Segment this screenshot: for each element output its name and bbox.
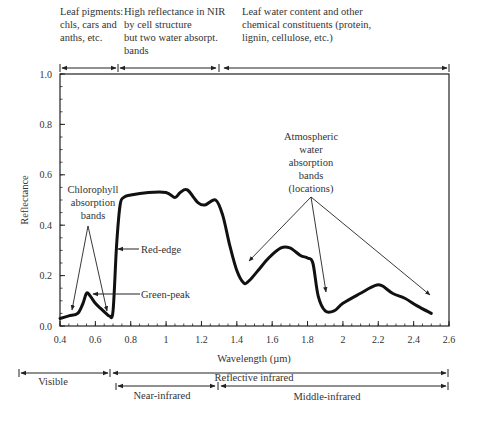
svg-text:Chlorophyll: Chlorophyll bbox=[68, 184, 119, 195]
x-tick-label: 2.4 bbox=[407, 334, 420, 345]
atmospheric-water-annotation: Atmospheric water absorption bands (loca… bbox=[249, 131, 430, 295]
y-tick-label: 0.6 bbox=[40, 169, 53, 180]
spectral-reflectance-chart: Leaf pigments: chls, cars and anths, etc… bbox=[0, 0, 477, 421]
y-axis-label: Reflectance bbox=[19, 175, 30, 225]
y-axis: 0.00.20.40.60.81.0 bbox=[40, 69, 66, 332]
y-tick-label: 0.2 bbox=[40, 270, 53, 281]
reflective-infrared-label: Reflective infrared bbox=[215, 372, 295, 383]
x-tick-label: 1 bbox=[164, 334, 169, 345]
y-tick-label: 0.4 bbox=[40, 220, 53, 231]
green-peak-annotation: Green-peak bbox=[93, 289, 191, 300]
x-tick-label: 2.2 bbox=[372, 334, 385, 345]
x-tick-label: 1.6 bbox=[266, 334, 279, 345]
x-tick-label: 2 bbox=[340, 334, 345, 345]
red-edge-annotation: Red-edge bbox=[118, 244, 182, 255]
svg-text:but two water absorpt.: but two water absorpt. bbox=[124, 32, 218, 43]
x-tick-label: 1.2 bbox=[195, 334, 208, 345]
top-range-1-label: Leaf pigments: bbox=[60, 6, 123, 17]
svg-text:chls, cars and: chls, cars and bbox=[60, 19, 118, 30]
svg-text:Atmospheric: Atmospheric bbox=[284, 131, 339, 142]
svg-text:bands: bands bbox=[124, 45, 149, 56]
y-tick-label: 0.0 bbox=[40, 321, 53, 332]
y-tick-label: 0.8 bbox=[40, 119, 53, 130]
x-tick-label: 0.8 bbox=[124, 334, 137, 345]
svg-text:chemical constituents (protein: chemical constituents (protein, bbox=[242, 19, 371, 31]
x-axis-label: Wavelength (µm) bbox=[217, 353, 291, 365]
svg-text:Green-peak: Green-peak bbox=[141, 289, 191, 300]
svg-text:by cell structure: by cell structure bbox=[124, 19, 192, 30]
svg-text:water: water bbox=[299, 144, 323, 155]
top-range-2-label: High reflectance in NIR bbox=[124, 6, 225, 17]
svg-text:(locations): (locations) bbox=[289, 183, 334, 195]
top-range-labels: Leaf pigments: chls, cars and anths, etc… bbox=[60, 6, 371, 56]
middle-infrared-label: Middle-infrared bbox=[293, 391, 361, 402]
x-axis: 0.40.60.811.21.41.61.822.22.42.6 bbox=[54, 321, 456, 345]
svg-text:anths, etc.: anths, etc. bbox=[60, 32, 102, 43]
svg-text:bands: bands bbox=[299, 170, 324, 181]
top-range-3-label: Leaf water content and other bbox=[242, 6, 363, 17]
y-tick-label: 1.0 bbox=[40, 69, 53, 80]
near-infrared-label: Near-infrared bbox=[134, 390, 192, 401]
svg-text:lignin, cellulose, etc.): lignin, cellulose, etc.) bbox=[242, 32, 333, 44]
x-tick-label: 0.6 bbox=[89, 334, 102, 345]
svg-text:Red-edge: Red-edge bbox=[141, 244, 182, 255]
reflectance-curve bbox=[60, 189, 431, 318]
x-tick-label: 0.4 bbox=[54, 334, 67, 345]
x-tick-label: 1.4 bbox=[231, 334, 244, 345]
svg-text:absorption: absorption bbox=[289, 157, 334, 168]
x-tick-label: 2.6 bbox=[443, 334, 456, 345]
svg-text:bands: bands bbox=[81, 210, 106, 221]
top-range-arrows bbox=[60, 64, 449, 72]
visible-label: Visible bbox=[38, 376, 68, 387]
chlorophyll-annotation: Chlorophyll absorption bands bbox=[68, 184, 119, 311]
plot-frame bbox=[60, 74, 449, 326]
svg-text:absorption: absorption bbox=[71, 197, 116, 208]
x-tick-label: 1.8 bbox=[301, 334, 314, 345]
